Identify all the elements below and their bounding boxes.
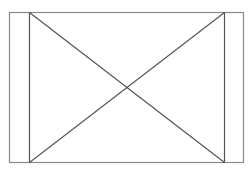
placeholder-diagram <box>0 0 252 172</box>
